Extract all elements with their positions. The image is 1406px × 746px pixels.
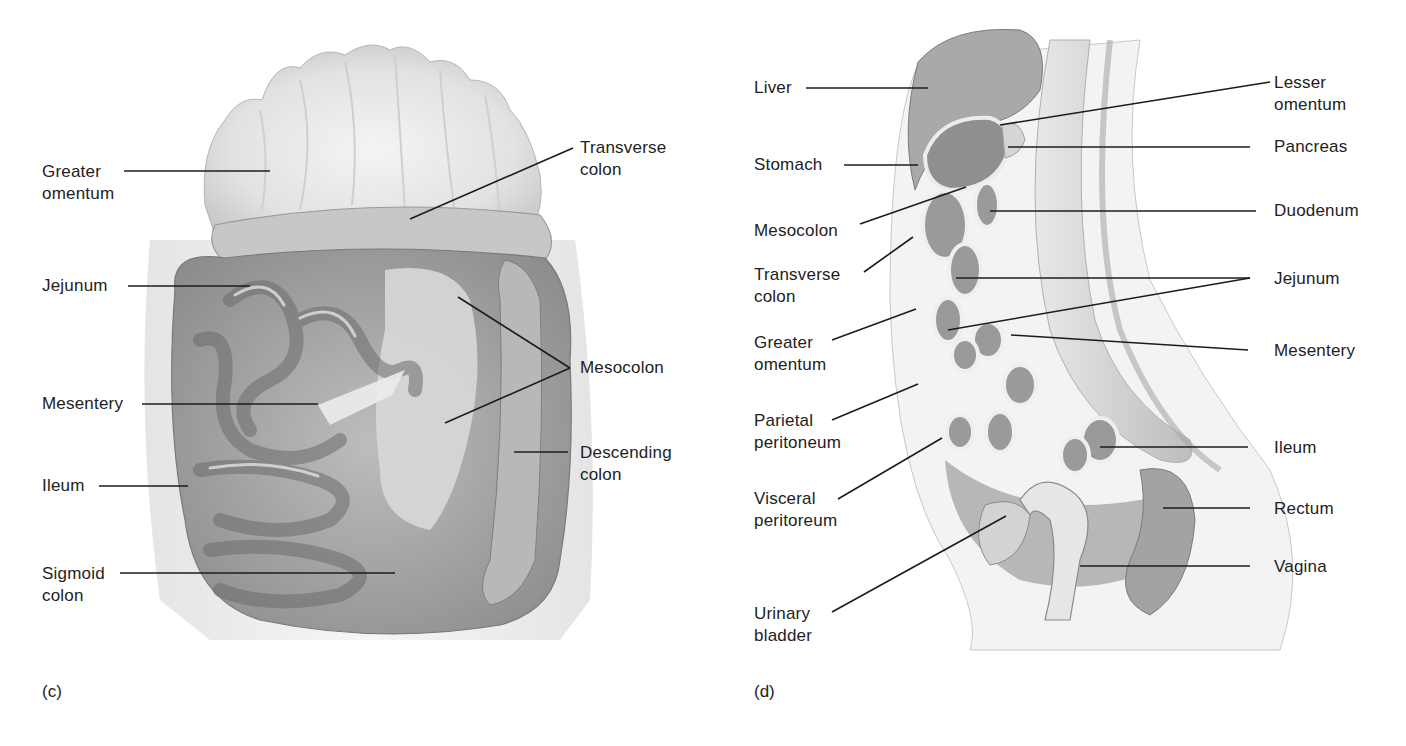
label-liver: Liver xyxy=(754,77,792,99)
label-greater-omentum: Greater omentum xyxy=(42,161,114,205)
label-vagina: Vagina xyxy=(1274,556,1327,578)
label-jejunum: Jejunum xyxy=(42,275,108,297)
label-stomach: Stomach xyxy=(754,154,823,176)
label-sigmoid-colon: Sigmoid colon xyxy=(42,563,105,607)
label-mesocolon: Mesocolon xyxy=(580,357,664,379)
panel-label-d: (d) xyxy=(754,682,775,702)
label-duodenum: Duodenum xyxy=(1274,200,1359,222)
label-transverse-colon: Transverse colon xyxy=(580,137,666,181)
label-pancreas: Pancreas xyxy=(1274,136,1347,158)
panel-d-sagittal-section: Liver Stomach Mesocolon Transverse colon… xyxy=(720,0,1406,746)
label-ileum: Ileum xyxy=(42,475,85,497)
label-descending-colon: Descending colon xyxy=(580,442,672,486)
label-mesentery: Mesentery xyxy=(1274,340,1355,362)
label-mesentery: Mesentery xyxy=(42,393,123,415)
label-mesocolon: Mesocolon xyxy=(754,220,838,242)
label-visceral-peritoneum: Visceral peritoreum xyxy=(754,488,837,532)
label-transverse-colon: Transverse colon xyxy=(754,264,840,308)
label-jejunum: Jejunum xyxy=(1274,268,1340,290)
greater-omentum-shape xyxy=(204,45,541,235)
label-ileum: Ileum xyxy=(1274,437,1317,459)
label-rectum: Rectum xyxy=(1274,498,1334,520)
panel-c-anterior-view: Greater omentum Jejunum Mesentery Ileum … xyxy=(0,0,720,746)
label-urinary-bladder: Urinary bladder xyxy=(754,603,812,647)
label-parietal-peritoneum: Parietal peritoneum xyxy=(754,410,841,454)
label-lesser-omentum: Lesser omentum xyxy=(1274,72,1346,116)
panel-label-c: (c) xyxy=(42,682,62,702)
label-greater-omentum: Greater omentum xyxy=(754,332,826,376)
